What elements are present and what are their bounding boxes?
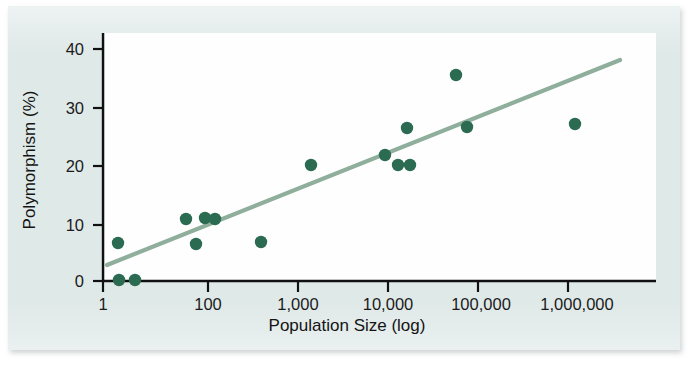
y-axis-label-wrapper: Polymorphism (%) bbox=[14, 60, 46, 260]
data-point bbox=[569, 118, 581, 130]
y-tick-label: 30 bbox=[40, 99, 84, 118]
data-point bbox=[379, 149, 391, 161]
data-point bbox=[392, 159, 404, 171]
figure-container: 40 30 20 10 0 1 100 1,000 10,000 100,000… bbox=[0, 0, 694, 365]
data-point bbox=[401, 122, 413, 134]
data-point bbox=[190, 238, 202, 250]
data-point bbox=[180, 213, 192, 225]
data-point bbox=[209, 213, 221, 225]
y-tick-label: 20 bbox=[40, 157, 84, 176]
data-point bbox=[113, 274, 125, 286]
x-axis-label: Population Size (log) bbox=[0, 316, 694, 336]
data-point bbox=[461, 121, 473, 133]
data-point bbox=[255, 236, 267, 248]
data-point bbox=[450, 69, 462, 81]
y-tick-label: 0 bbox=[40, 272, 84, 291]
data-point bbox=[404, 159, 416, 171]
data-point bbox=[305, 159, 317, 171]
trend-line bbox=[107, 60, 620, 265]
y-tick-label: 40 bbox=[40, 40, 84, 59]
x-tick-label: 100,000 bbox=[451, 295, 511, 314]
x-tick-label: 1,000,000 bbox=[540, 295, 613, 314]
x-tick-label: 10,000 bbox=[363, 295, 413, 314]
x-tick-label: 100 bbox=[194, 295, 222, 314]
x-tick-label: 1 bbox=[98, 295, 107, 314]
y-axis-label: Polymorphism (%) bbox=[20, 60, 40, 260]
data-point bbox=[112, 237, 124, 249]
y-tick-label: 10 bbox=[40, 216, 84, 235]
data-point bbox=[129, 274, 141, 286]
x-tick-label: 1,000 bbox=[277, 295, 318, 314]
